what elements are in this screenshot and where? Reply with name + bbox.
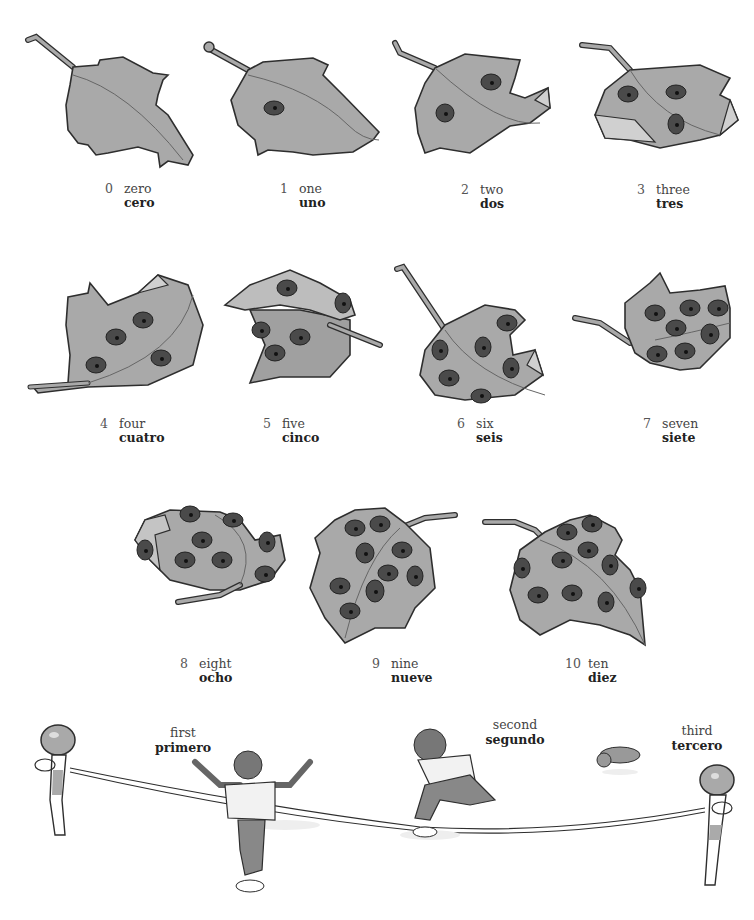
ladybug-icon	[335, 293, 351, 313]
ladybug-icon	[503, 358, 519, 378]
ladybug-icon	[514, 558, 530, 578]
ladybug-icon	[192, 532, 212, 548]
spanish-word: cero	[124, 195, 155, 210]
spanish-word: siete	[662, 430, 695, 445]
spanish-word: dos	[480, 196, 504, 211]
ordinal-first: first primero	[148, 725, 218, 755]
english-word: first	[148, 725, 218, 740]
ladybug-icon	[578, 542, 598, 558]
digit: 0	[105, 181, 113, 196]
leaf-0-ladybugs	[28, 35, 198, 170]
english-word: ten	[588, 656, 608, 671]
english-word: four	[119, 416, 145, 431]
english-word: eight	[199, 656, 231, 671]
ladybug-icon	[366, 580, 384, 602]
leaf-8-ladybugs	[130, 500, 290, 610]
ladybug-icon	[432, 340, 448, 360]
ladybug-icon	[701, 324, 719, 344]
rabbit-icon	[597, 747, 640, 775]
english-word: zero	[124, 181, 151, 196]
english-word: three	[656, 182, 690, 197]
digit: 7	[643, 416, 651, 431]
ladybug-icon	[290, 329, 310, 345]
ladybug-icon	[680, 300, 700, 316]
digit: 3	[637, 182, 645, 197]
ladybug-icon	[392, 542, 412, 558]
spanish-word: cuatro	[119, 430, 165, 445]
race-scene-illustration	[0, 700, 754, 920]
leaf-10-ladybugs	[480, 510, 650, 650]
ordinal-third: third tercero	[662, 723, 732, 753]
ladybug-icon	[666, 85, 686, 99]
ladybug-icon	[252, 322, 270, 338]
ladybug-icon	[618, 86, 638, 102]
english-word: second	[480, 717, 550, 732]
ladybug-icon	[223, 513, 243, 527]
leaf-9-ladybugs	[305, 498, 465, 648]
english-word: six	[476, 416, 493, 431]
ladybug-icon	[562, 585, 582, 601]
english-word: nine	[391, 656, 419, 671]
english-word: one	[299, 181, 322, 196]
ladybug-icon	[345, 520, 365, 536]
ladybug-icon	[552, 552, 572, 568]
spanish-word: ocho	[199, 670, 232, 685]
digit: 10	[565, 656, 581, 671]
leaf-6-ladybugs	[395, 265, 550, 400]
ladybug-icon	[340, 603, 360, 619]
ladybug-icon	[668, 114, 684, 134]
ladybug-icon	[265, 345, 285, 361]
ladybug-icon	[255, 566, 275, 582]
girl-runner-first	[195, 751, 320, 892]
ladybug-icon	[137, 540, 153, 560]
english-word: seven	[662, 416, 698, 431]
ladybug-icon	[647, 346, 667, 362]
ladybug-icon	[666, 320, 686, 336]
ladybug-icon	[264, 101, 284, 115]
ladybug-icon	[407, 566, 423, 586]
spanish-word: tres	[656, 196, 683, 211]
ladybug-icon	[582, 516, 602, 532]
leaf-3-ladybugs	[580, 40, 754, 155]
digit: 6	[457, 416, 465, 431]
ladybug-icon	[356, 543, 374, 563]
digit: 5	[263, 416, 271, 431]
leaf-7-ladybugs	[570, 268, 745, 378]
ladybug-icon	[475, 337, 491, 357]
ladybug-icon	[436, 104, 454, 122]
ladybug-icon	[497, 315, 517, 331]
spanish-word: diez	[588, 670, 617, 685]
leaf-5-ladybugs	[220, 265, 385, 390]
leaf-2-ladybugs	[390, 38, 560, 158]
ladybug-icon	[133, 312, 153, 328]
english-word: five	[282, 416, 305, 431]
leaf-1-ladybug	[203, 40, 383, 165]
ladybug-icon	[708, 300, 728, 316]
ladybug-icon	[330, 578, 350, 594]
english-word: third	[662, 723, 732, 738]
ladybug-icon	[259, 532, 275, 552]
spanish-word: seis	[476, 430, 503, 445]
digit: 1	[280, 181, 288, 196]
ladybug-icon	[180, 506, 200, 522]
ladybug-icon	[86, 357, 106, 373]
digit: 4	[100, 416, 108, 431]
ladybug-icon	[630, 578, 646, 598]
spanish-word: segundo	[480, 732, 550, 747]
digit: 2	[461, 182, 469, 197]
ladybug-icon	[439, 370, 459, 386]
spanish-word: cinco	[282, 430, 319, 445]
ladybug-icon	[602, 555, 618, 575]
spanish-word: nueve	[391, 670, 432, 685]
ladybug-icon	[675, 343, 695, 359]
spanish-word: primero	[148, 740, 218, 755]
english-word: two	[480, 182, 503, 197]
finish-post-right	[700, 765, 734, 885]
spanish-word: uno	[299, 195, 326, 210]
finish-post-left	[35, 725, 75, 835]
ladybug-icon	[481, 74, 501, 90]
ladybug-icon	[598, 592, 614, 612]
ladybug-icon	[645, 305, 665, 321]
ladybug-icon	[151, 350, 171, 366]
ladybug-icon	[528, 587, 548, 603]
